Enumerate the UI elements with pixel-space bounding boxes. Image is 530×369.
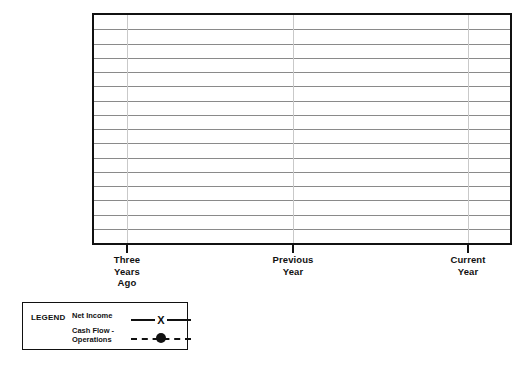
legend-entry-net-income-label: Net Income	[72, 311, 130, 320]
chart-plot-area	[92, 13, 512, 245]
gridline-vertical	[468, 15, 469, 243]
chart-legend: LEGEND Net Income X Cash Flow - Operatio…	[22, 302, 188, 350]
dot-marker-icon	[156, 333, 166, 343]
tick-current-year	[467, 245, 469, 253]
tick-previous-year-label: Previous Year	[233, 254, 353, 277]
x-marker-icon: X	[155, 312, 167, 328]
tick-previous-year	[292, 245, 294, 253]
legend-title: LEGEND	[31, 313, 66, 322]
legend-entry-cash-flow-operations: Cash Flow - Operations	[72, 327, 189, 347]
legend-entry-cash-flow-operations-sample	[131, 327, 191, 345]
tick-three-years-ago-label: Three Years Ago	[67, 254, 187, 289]
gridline-vertical	[293, 15, 294, 243]
vertical-gridlines	[94, 15, 510, 243]
legend-entry-cash-flow-operations-label: Cash Flow - Operations	[72, 326, 130, 344]
tick-three-years-ago	[126, 245, 128, 253]
tick-current-year-label: Current Year	[408, 254, 528, 277]
gridline-vertical	[127, 15, 128, 243]
